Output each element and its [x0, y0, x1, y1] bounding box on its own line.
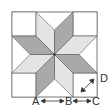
- corner-square-br: [73, 73, 97, 97]
- label-d: D: [100, 72, 108, 84]
- center-dot: [54, 54, 56, 56]
- label-c: C: [92, 95, 100, 107]
- corner-square-tl: [12, 12, 36, 36]
- label-a: A: [32, 95, 40, 107]
- corner-square-tr: [73, 12, 97, 36]
- quilt-diagram: A B C D: [0, 0, 112, 108]
- label-b: B: [65, 95, 72, 107]
- corner-square-bl: [12, 73, 36, 97]
